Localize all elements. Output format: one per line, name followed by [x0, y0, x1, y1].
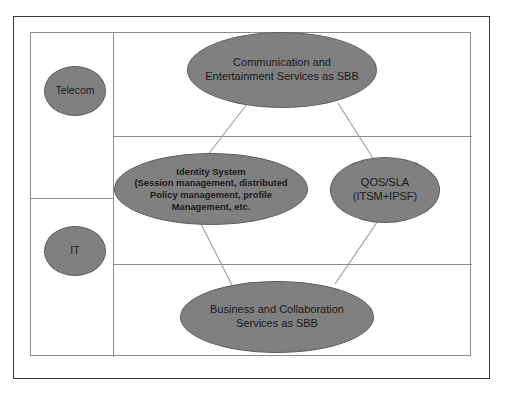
- left-column-row-divider: [31, 198, 113, 199]
- content-row-divider-top: [113, 136, 472, 137]
- node-communication-services[interactable]: Communication and Entertainment Services…: [187, 32, 377, 108]
- diagram-canvas: Telecom IT Communication and Entertainme…: [0, 0, 514, 401]
- node-communication-services-label: Communication and Entertainment Services…: [188, 56, 376, 84]
- domain-node-telecom[interactable]: Telecom: [44, 66, 106, 116]
- domain-node-it-label: IT: [45, 244, 105, 257]
- content-row-divider-bottom: [113, 264, 472, 265]
- domain-node-telecom-label: Telecom: [45, 84, 105, 97]
- node-business-collaboration[interactable]: Business and Collaboration Services as S…: [180, 281, 374, 353]
- node-qos-sla-label: QOS/SLA (ITSM+IPSF): [331, 176, 439, 204]
- domain-node-it[interactable]: IT: [44, 226, 106, 276]
- node-identity-system-label: Identity System (Session management, dis…: [115, 166, 307, 213]
- node-identity-system[interactable]: Identity System (Session management, dis…: [114, 153, 308, 225]
- node-business-collaboration-label: Business and Collaboration Services as S…: [181, 303, 373, 331]
- node-qos-sla[interactable]: QOS/SLA (ITSM+IPSF): [330, 157, 440, 223]
